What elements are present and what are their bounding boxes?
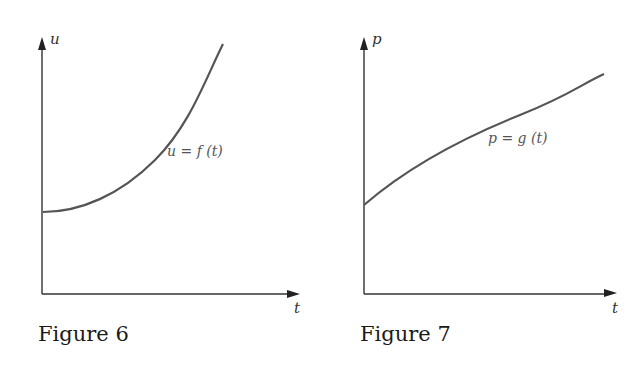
figure-7-plot <box>320 0 639 368</box>
figure-7-caption: Figure 7 <box>360 322 451 346</box>
figure-6: u t u = f (t) Figure 6 <box>0 0 320 368</box>
figure-6-caption: Figure 6 <box>38 322 129 346</box>
x-axis-label: t <box>294 299 300 317</box>
x-axis-arrow-icon <box>604 289 617 297</box>
y-axis-label: u <box>50 30 60 48</box>
x-axis-arrow-icon <box>287 290 300 298</box>
y-axis-label: p <box>372 30 382 48</box>
figure-6-plot <box>0 0 320 368</box>
figure-7: p t p = g (t) Figure 7 <box>320 0 639 368</box>
y-axis-arrow-icon <box>360 37 368 50</box>
x-axis-label: t <box>612 299 618 317</box>
curve-g <box>364 74 604 205</box>
curve-label-g: p = g (t) <box>488 130 548 146</box>
curve-label-f: u = f (t) <box>167 143 223 159</box>
y-axis-arrow-icon <box>38 37 46 50</box>
curve-f <box>43 44 223 212</box>
